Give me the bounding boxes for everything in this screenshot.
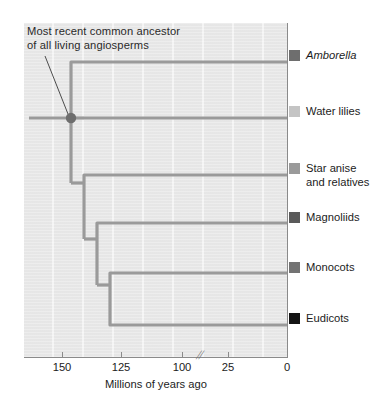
x-axis-title: Millions of years ago <box>24 378 288 390</box>
x-axis-tick-label-25: 25 <box>222 361 234 373</box>
mrca-node-dot <box>66 113 76 123</box>
branch-node5-stem-up <box>110 273 123 285</box>
mrca-annotation: Most recent common ancestor of all livin… <box>27 25 207 52</box>
x-axis-tick-label-100: 100 <box>173 361 192 373</box>
branch-node3-stem-up <box>84 175 97 183</box>
x-axis-tick-label-0: 0 <box>284 361 290 373</box>
x-axis-tick-25 <box>228 352 229 358</box>
x-axis-tick-150 <box>62 352 63 358</box>
legend-item-magnoliids: Magnoliids <box>289 211 359 225</box>
x-axis-line <box>24 357 288 358</box>
x-axis-tick-100 <box>182 352 183 358</box>
tree-branches <box>0 0 385 418</box>
legend-label-water-lilies: Water lilies <box>306 105 360 119</box>
legend-item-monocots: Monocots <box>289 261 355 275</box>
legend-item-water-lilies: Water lilies <box>289 105 360 119</box>
x-axis-tick-label-150: 150 <box>53 361 72 373</box>
axis-right-border <box>287 23 288 358</box>
phylogenetic-tree-figure: Most recent common ancestor of all livin… <box>0 0 385 418</box>
legend-label-monocots: Monocots <box>306 261 355 275</box>
x-axis-tick-label-125: 125 <box>112 361 131 373</box>
branch-amborella <box>71 62 288 118</box>
legend-swatch-magnoliids <box>289 212 300 223</box>
legend-swatch-water-lilies <box>289 106 300 117</box>
x-axis-tick-0 <box>287 352 288 358</box>
legend-swatch-star-anise <box>289 163 300 174</box>
x-axis-tick-125 <box>121 352 122 358</box>
legend-label-star-anise: Star anise and relatives <box>306 162 369 189</box>
legend-swatch-eudicots <box>289 313 300 324</box>
legend-label-magnoliids: Magnoliids <box>306 211 359 225</box>
annotation-leader-line <box>45 56 68 114</box>
branch-node5-stem-down <box>110 285 123 325</box>
legend-label-eudicots: Eudicots <box>306 312 349 326</box>
legend-label-amborella: Amborella <box>306 49 356 63</box>
legend-item-amborella: Amborella <box>289 49 356 63</box>
legend-swatch-monocots <box>289 262 300 273</box>
legend-swatch-amborella <box>289 50 300 61</box>
branch-node4-stem-up <box>97 223 110 239</box>
mrca-annotation-line-2: of all living angiosperms <box>27 39 207 53</box>
mrca-annotation-line-1: Most recent common ancestor <box>27 25 207 39</box>
legend-item-eudicots: Eudicots <box>289 312 349 326</box>
legend-item-star-anise: Star anise and relatives <box>289 162 369 189</box>
